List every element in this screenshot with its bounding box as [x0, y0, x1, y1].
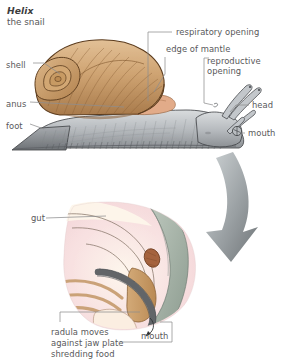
shell-group — [35, 40, 164, 119]
label-gut: gut — [31, 213, 45, 223]
zoom-arrow-group — [206, 152, 258, 262]
label-shell: shell — [6, 60, 26, 70]
label-mouth-inset: mouth — [141, 331, 168, 341]
inset-group — [60, 196, 196, 344]
label-mouth: mouth — [248, 128, 275, 138]
eye-spot-left — [249, 86, 251, 88]
figure-root: Helix the snail — [0, 0, 287, 360]
body-spot — [205, 132, 211, 134]
eye-spot-right — [258, 89, 260, 91]
shell-apex — [55, 76, 61, 81]
label-head: head — [252, 100, 273, 110]
label-respiratory-opening: respiratory opening — [176, 27, 259, 37]
caption-line-3: shredding food — [51, 349, 115, 359]
caption-line-2: against jaw plate — [51, 338, 124, 348]
label-edge-of-mantle: edge of mantle — [166, 44, 230, 54]
label-foot: foot — [6, 121, 23, 131]
label-reproductive-opening-line1: reproductive — [207, 56, 261, 66]
caption-line-1: radula moves — [51, 327, 109, 337]
zoom-arrow — [206, 152, 258, 262]
label-anus: anus — [6, 99, 26, 109]
reproductive-opening-mark — [213, 103, 217, 107]
figure-artwork — [0, 0, 287, 360]
leader-foot — [30, 124, 44, 129]
label-reproductive-opening-line2: opening — [207, 66, 241, 76]
